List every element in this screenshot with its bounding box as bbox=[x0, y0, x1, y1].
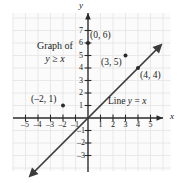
x-tick-label-2: 2 bbox=[111, 121, 115, 129]
y-tick-label-2: 2 bbox=[79, 89, 83, 97]
y-tick-label--1: –1 bbox=[77, 127, 85, 135]
x-tick-label-3: 3 bbox=[124, 121, 128, 129]
point-label-4-4: (4, 4) bbox=[140, 71, 161, 81]
x-tick-label-1: 1 bbox=[99, 121, 103, 129]
y-tick-label-7: 7 bbox=[79, 27, 83, 35]
x-tick-label--3: –3 bbox=[46, 121, 54, 129]
x-axis-label: x bbox=[170, 112, 174, 121]
point-label-0-6: (0, 6) bbox=[90, 31, 111, 41]
line-annotation-x: x bbox=[142, 96, 146, 106]
x-tick-label--4: –4 bbox=[34, 121, 42, 129]
region-annotation-line1: Graph of bbox=[23, 41, 87, 51]
coordinate-plane-svg bbox=[0, 0, 183, 183]
region-annotation-line2: y ≥ x bbox=[23, 54, 87, 64]
x-tick-label--5: –5 bbox=[21, 121, 29, 129]
x-tick-label-5: 5 bbox=[149, 121, 153, 129]
region-annotation: Graph of y ≥ x bbox=[23, 41, 87, 64]
x-tick-label--2: –2 bbox=[59, 121, 67, 129]
x-tick-label-4: 4 bbox=[136, 121, 140, 129]
y-tick-label-1: 1 bbox=[79, 102, 83, 110]
point-neg2-1 bbox=[61, 104, 65, 108]
point-label--2-1: (–2, 1) bbox=[31, 95, 56, 105]
graph-figure: y x –5 –4 –3 –2 –1 1 2 3 4 5 7 6 5 4 3 2… bbox=[0, 0, 183, 183]
y-tick-label--3: –3 bbox=[77, 152, 85, 160]
point-3-5 bbox=[124, 54, 128, 58]
y-axis-label: y bbox=[79, 1, 83, 10]
y-tick-label-3: 3 bbox=[79, 77, 83, 85]
y-tick-label-4: 4 bbox=[79, 64, 83, 72]
line-annotation: Line y = x bbox=[108, 97, 146, 107]
y-tick-label--2: –2 bbox=[77, 139, 85, 147]
point-label-3-5: (3, 5) bbox=[101, 58, 122, 68]
region-annotation-x: x bbox=[60, 53, 64, 64]
line-annotation-eq: = bbox=[132, 96, 142, 106]
line-annotation-prefix: Line bbox=[108, 96, 128, 106]
region-annotation-rel: ≥ bbox=[50, 53, 61, 64]
